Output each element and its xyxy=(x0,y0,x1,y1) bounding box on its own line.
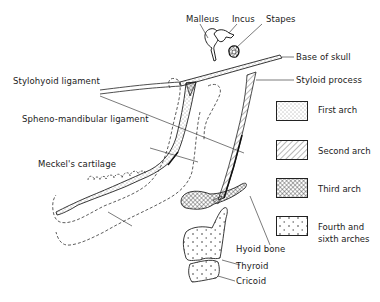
legend-label-first-arch: First arch xyxy=(318,105,357,116)
thyroid-cartilage xyxy=(183,208,227,261)
label-incus: Incus xyxy=(232,14,255,24)
label-stylohyoid-ligament: Stylohyoid ligament xyxy=(13,76,100,86)
legend-label-fourth-sixth-line2: sixth arches xyxy=(318,234,369,245)
legend-swatch-fourth-sixth-arches xyxy=(276,216,308,236)
label-thyroid: Thyroid xyxy=(236,261,269,271)
legend-label-second-arch: Second arch xyxy=(318,146,371,157)
label-stapes: Stapes xyxy=(266,14,296,24)
legend-swatch-first-arch xyxy=(276,101,308,121)
label-malleus: Malleus xyxy=(186,14,219,24)
legend-label-fourth-sixth-line1: Fourth and xyxy=(318,222,364,233)
ossicles xyxy=(205,29,239,61)
hyoid-bone xyxy=(181,183,246,209)
label-hyoid-bone: Hyoid bone xyxy=(236,244,285,254)
styloid-and-stylohyoid xyxy=(218,72,256,200)
legend-swatch-third-arch xyxy=(276,178,308,198)
label-spheno-mandibular-ligament: Spheno-mandibular ligament xyxy=(22,114,149,124)
label-meckels-cartilage: Meckel's cartilage xyxy=(38,159,116,169)
label-base-of-skull: Base of skull xyxy=(296,52,351,62)
label-cricoid: Cricoid xyxy=(236,276,266,286)
label-styloid-process: Styloid process xyxy=(296,75,362,85)
legend-label-third-arch: Third arch xyxy=(318,184,361,195)
legend-swatch-second-arch xyxy=(276,140,308,160)
cricoid-cartilage xyxy=(189,260,220,282)
